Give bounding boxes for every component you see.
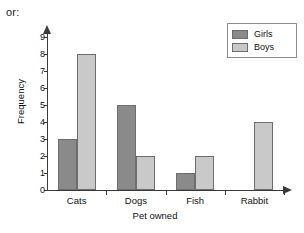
y-tick-label: 4 [25,118,45,127]
x-axis-label-rabbit: Rabbit [224,195,284,206]
y-tick-label: 1 [25,169,45,178]
bar-cats-boys [77,54,96,190]
y-axis-line [47,33,48,191]
legend-swatch-boys [232,43,248,52]
y-tick-label: 3 [25,135,45,144]
legend-label: Girls [254,30,273,39]
chart-legend: GirlsBoys [227,23,297,58]
bar-cats-girls [58,139,77,190]
y-axis-title: Frequency [15,62,26,142]
y-tick-label: 7 [25,67,45,76]
x-axis-label-cats: Cats [47,195,107,206]
legend-swatch-girls [232,30,248,39]
x-axis-label-fish: Fish [165,195,225,206]
x-axis-title: Pet owned [100,210,210,221]
bar-dogs-boys [136,156,155,190]
y-tick-label: 8 [25,50,45,59]
y-tick-label: 2 [25,152,45,161]
bar-fish-girls [176,173,195,190]
bar-fish-boys [195,156,214,190]
legend-item-girls: Girls [232,28,292,40]
y-tick-label: 9 [25,33,45,42]
x-axis-label-dogs: Dogs [106,195,166,206]
bar-rabbit-boys [254,122,273,190]
y-tick-label: 6 [25,84,45,93]
y-tick-label: 5 [25,101,45,110]
legend-label: Boys [254,43,274,52]
bar-dogs-girls [117,105,136,190]
y-tick-label: 0 [25,186,45,195]
legend-item-boys: Boys [232,41,292,53]
bar-chart: 0123456789 CatsDogsFishRabbit Frequency … [0,0,304,233]
